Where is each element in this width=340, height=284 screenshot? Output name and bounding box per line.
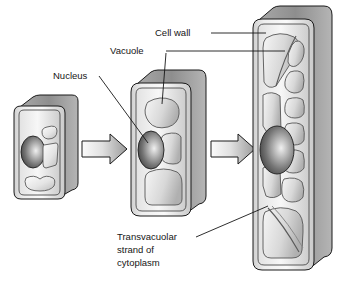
stage-2-expanding-cell: [131, 70, 206, 216]
cell-1-nucleus: [21, 136, 45, 168]
label-nucleus: Nucleus: [53, 70, 88, 81]
cell-3-nucleus: [260, 126, 294, 174]
cell-2-vacuole-bottom: [145, 169, 182, 205]
arrow-2-shape: [211, 134, 255, 164]
arrow-1-shape: [82, 134, 127, 164]
stage-3-mature-cell: [253, 6, 332, 270]
cell-1-vacuole-top: [42, 126, 57, 139]
cell-3-vacuole-r2: [285, 71, 304, 93]
label-vacuole: Vacuole: [110, 45, 144, 56]
cell-3-vacuole-r3: [285, 98, 305, 118]
cell-development-diagram: Cell wall Vacuole Nucleus Transvacuolar …: [0, 0, 340, 284]
arrow-2: [211, 134, 255, 164]
label-cell-wall: Cell wall: [155, 27, 190, 38]
cell-1-vacuole-bottom: [25, 176, 55, 191]
arrow-1: [82, 134, 127, 164]
cell-1-vacuole-mid: [43, 143, 58, 168]
label-transvacuolar-line1: Transvacuolar: [117, 231, 177, 242]
cell-2-nucleus: [138, 131, 164, 169]
stage-1-young-cell: [14, 95, 78, 199]
cell-3-vacuole-bottom-large: [263, 208, 303, 258]
cell-3-vacuole-r6: [282, 178, 304, 202]
label-transvacuolar-line2: strand of: [117, 244, 154, 255]
label-transvacuolar-line3: cytoplasm: [117, 257, 160, 268]
